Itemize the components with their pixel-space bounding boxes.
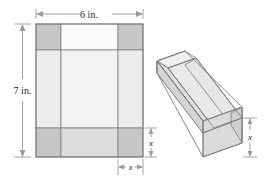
folded-open-box	[157, 51, 242, 157]
x-flat-vertical-label: x	[148, 138, 153, 148]
width-label: 6 in.	[80, 9, 98, 20]
figure-canvas: 6 in. 7 in. x	[0, 0, 264, 182]
flap-top	[61, 24, 118, 50]
x-h-arrow-right	[137, 165, 143, 170]
corner-square-bottom-right	[118, 128, 143, 157]
box-base-panel	[61, 50, 118, 128]
height-label: 7 in.	[14, 85, 32, 96]
width-arrow-left	[36, 11, 43, 17]
x-v1-arrow-top	[149, 128, 154, 134]
x-box-vertical-label: x	[247, 132, 252, 142]
height-arrow-top	[20, 24, 26, 31]
dimension-x-box-vertical: x	[243, 118, 257, 157]
flap-bottom	[61, 128, 118, 157]
corner-square-top-left	[36, 24, 61, 50]
dimension-width: 6 in.	[36, 9, 143, 20]
flap-right	[118, 50, 143, 128]
dimension-x-flat-vertical: x	[145, 128, 157, 157]
height-arrow-bottom	[20, 150, 26, 157]
flap-left	[36, 50, 61, 128]
dimension-x-horizontal: x	[118, 159, 143, 175]
x-v2-arrow-bottom	[248, 151, 253, 157]
corner-square-bottom-left	[36, 128, 61, 157]
dimension-height: 7 in.	[14, 24, 32, 157]
width-arrow-right	[136, 11, 143, 17]
x-v2-arrow-top	[248, 118, 253, 124]
x-v1-arrow-bottom	[149, 151, 154, 157]
box-problem-figure: 6 in. 7 in. x	[0, 0, 264, 182]
x-h-arrow-left	[118, 165, 124, 170]
flat-pattern	[36, 24, 143, 157]
corner-square-top-right	[118, 24, 143, 50]
x-horizontal-label: x	[128, 162, 133, 172]
